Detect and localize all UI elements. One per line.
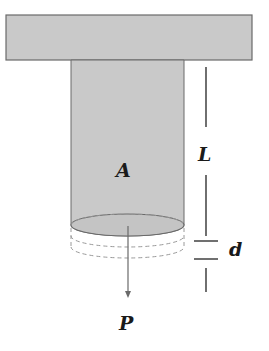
elongation-dimension <box>194 241 218 292</box>
elongation-label: d <box>229 238 242 260</box>
load-label: P <box>118 312 134 334</box>
area-label: A <box>114 159 131 181</box>
support-plate <box>6 15 252 60</box>
arrow-head-icon <box>125 291 131 298</box>
length-label: L <box>197 143 211 165</box>
column-body <box>71 60 184 236</box>
load-arrow <box>125 226 131 298</box>
column-diagram: A L d P <box>0 0 269 351</box>
